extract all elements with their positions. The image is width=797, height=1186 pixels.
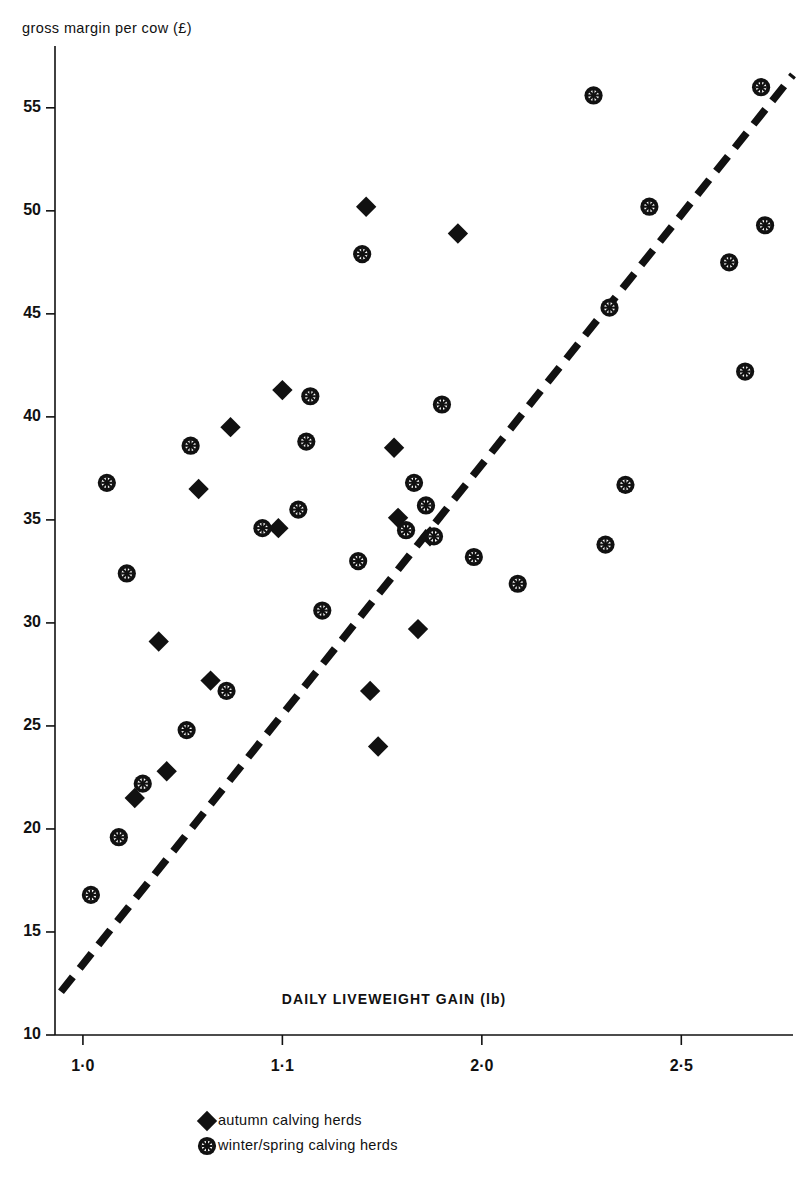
data-point-winter-spring bbox=[178, 721, 196, 739]
legend-label-autumn: autumn calving herds bbox=[218, 1108, 362, 1133]
data-point-winter-spring bbox=[600, 299, 618, 317]
data-point-autumn bbox=[368, 736, 388, 756]
data-point-winter-spring bbox=[353, 245, 371, 263]
y-tick-label: 10 bbox=[0, 1025, 41, 1043]
data-point-autumn bbox=[356, 197, 376, 217]
data-point-winter-spring bbox=[297, 433, 315, 451]
y-tick-label: 55 bbox=[0, 98, 41, 116]
data-point-winter-spring bbox=[640, 198, 658, 216]
data-point-winter-spring bbox=[465, 548, 483, 566]
y-tick-label: 25 bbox=[0, 716, 41, 734]
data-point-winter-spring bbox=[349, 552, 367, 570]
data-point-autumn bbox=[220, 417, 240, 437]
data-point-autumn bbox=[149, 631, 169, 651]
y-tick-label: 15 bbox=[0, 922, 41, 940]
data-point-autumn bbox=[200, 670, 220, 690]
x-tick-label: 1·0 bbox=[43, 1057, 123, 1075]
x-tick-label: 1·1 bbox=[242, 1057, 322, 1075]
data-point-winter-spring bbox=[584, 86, 602, 104]
data-point-autumn bbox=[157, 761, 177, 781]
data-point-winter-spring bbox=[217, 682, 235, 700]
x-tick-label: 2·0 bbox=[442, 1057, 522, 1075]
data-point-winter-spring bbox=[509, 575, 527, 593]
chart-legend: autumn calving herds winter/spring calvi… bbox=[196, 1108, 398, 1158]
data-point-winter-spring bbox=[397, 521, 415, 539]
legend-label-winter-spring: winter/spring calving herds bbox=[218, 1133, 398, 1158]
data-point-winter-spring bbox=[616, 476, 634, 494]
data-point-winter-spring bbox=[253, 519, 271, 537]
data-point-autumn bbox=[408, 619, 428, 639]
y-tick-label: 35 bbox=[0, 510, 41, 528]
legend-item-autumn: autumn calving herds bbox=[196, 1108, 398, 1133]
data-point-autumn bbox=[448, 223, 468, 243]
y-axis-title: gross margin per cow (£) bbox=[22, 20, 192, 36]
data-point-winter-spring bbox=[417, 496, 435, 514]
y-tick-label: 40 bbox=[0, 407, 41, 425]
data-point-autumn bbox=[272, 380, 292, 400]
data-point-winter-spring bbox=[425, 527, 443, 545]
plot-canvas bbox=[0, 0, 797, 1186]
legend-item-winter-spring: winter/spring calving herds bbox=[196, 1133, 398, 1158]
data-point-winter-spring bbox=[405, 474, 423, 492]
filled-diamond-icon bbox=[196, 1110, 218, 1132]
data-point-winter-spring bbox=[118, 564, 136, 582]
y-tick-label: 30 bbox=[0, 613, 41, 631]
y-tick-label: 20 bbox=[0, 819, 41, 837]
data-point-winter-spring bbox=[720, 253, 738, 271]
data-point-autumn bbox=[384, 438, 404, 458]
data-point-winter-spring bbox=[433, 395, 451, 413]
x-tick-label: 2·5 bbox=[641, 1057, 721, 1075]
data-point-winter-spring bbox=[98, 474, 116, 492]
data-point-winter-spring bbox=[756, 216, 774, 234]
data-point-winter-spring bbox=[182, 437, 200, 455]
data-point-winter-spring bbox=[736, 362, 754, 380]
x-axis-title: DAILY LIVEWEIGHT GAIN (lb) bbox=[244, 991, 544, 1007]
data-point-winter-spring bbox=[134, 775, 152, 793]
scatter-chart-figure: gross margin per cow (£) 10152025303540 bbox=[0, 0, 797, 1186]
data-point-winter-spring bbox=[301, 387, 319, 405]
spoked-circle-icon bbox=[196, 1135, 218, 1157]
data-point-winter-spring bbox=[82, 886, 100, 904]
data-point-winter-spring bbox=[313, 601, 331, 619]
data-point-autumn bbox=[188, 479, 208, 499]
data-point-winter-spring bbox=[110, 828, 128, 846]
y-tick-label: 45 bbox=[0, 304, 41, 322]
data-point-winter-spring bbox=[752, 78, 770, 96]
y-tick-label: 50 bbox=[0, 201, 41, 219]
data-point-winter-spring bbox=[289, 500, 307, 518]
data-point-autumn bbox=[360, 681, 380, 701]
data-point-winter-spring bbox=[596, 536, 614, 554]
data-points bbox=[82, 78, 774, 904]
